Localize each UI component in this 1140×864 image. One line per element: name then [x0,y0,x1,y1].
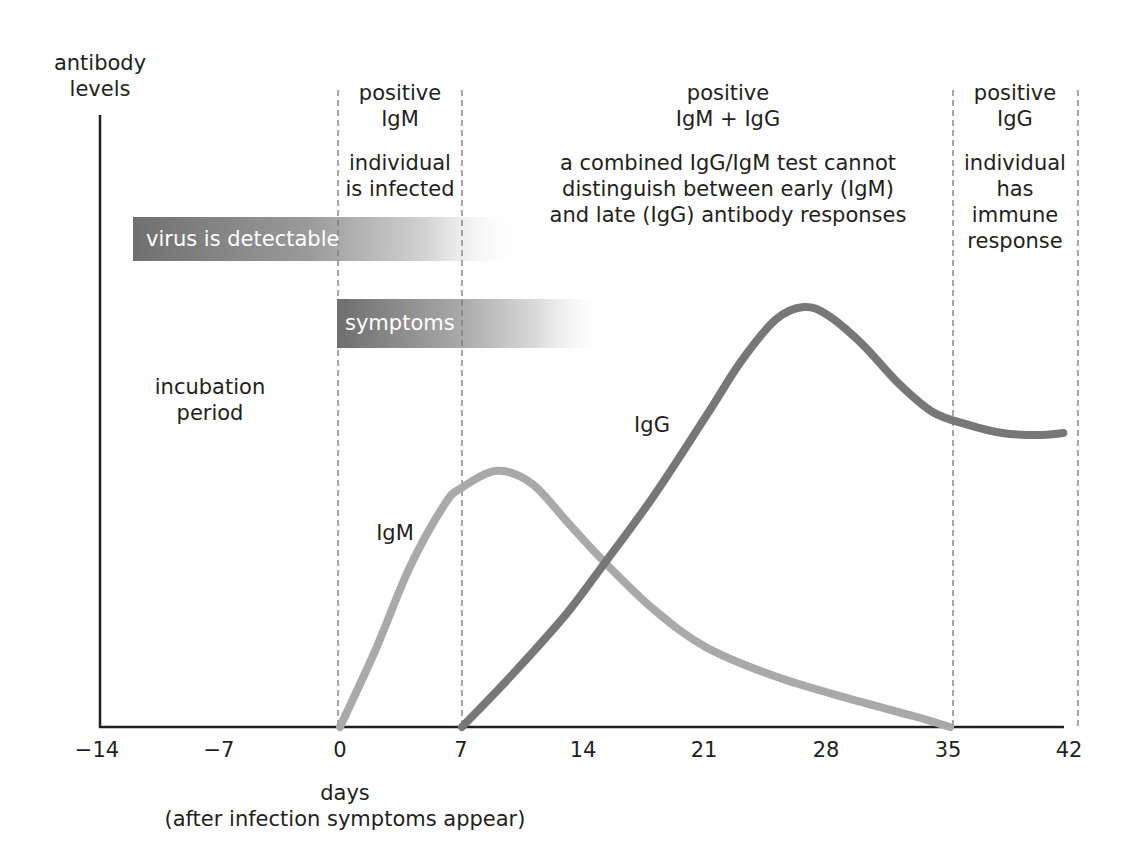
phase1-desc-line2: is infected [346,176,455,202]
igm-curve-label: IgM [376,520,414,546]
phase3-title-line1: positive [974,80,1056,106]
virus-bar-label: virus is detectable [133,217,343,261]
x-tick: −7 [204,738,235,762]
y-axis-title-line2: levels [54,76,146,102]
igg-curve-label: IgG [634,412,670,438]
phase2-desc-line1: a combined IgG/IgM test cannot [550,150,907,176]
phase3-desc-line3: immune [964,202,1066,228]
incubation-line1: incubation [155,374,265,400]
x-tick: 35 [935,738,962,762]
phase2-description: a combined IgG/IgM test cannot distingui… [550,150,907,228]
phase3-title: positive IgG [974,80,1056,132]
x-axis-subtitle: (after infection symptoms appear) [165,806,526,832]
phase3-description: individual has immune response [964,150,1066,254]
phase1-title-line1: positive [359,80,441,106]
phase3-desc-line2: has [964,176,1066,202]
phase2-title-line2: IgM + IgG [676,106,780,132]
igg-curve [462,307,1063,727]
phase1-title-line2: IgM [359,106,441,132]
phase3-desc-line1: individual [964,150,1066,176]
phase2-title-line1: positive [676,80,780,106]
x-tick: 21 [691,738,718,762]
x-tick: −14 [75,738,119,762]
antibody-chart [0,0,1140,864]
y-axis-title-line1: antibody [54,50,146,76]
symptoms-bar-label: symptoms [337,301,467,345]
x-axis-title: days (after infection symptoms appear) [165,780,526,832]
incubation-line2: period [155,400,265,426]
y-axis-title: antibody levels [54,50,146,102]
phase2-title: positive IgM + IgG [676,80,780,132]
phase1-description: individual is infected [346,150,455,202]
phase3-title-line2: IgG [974,106,1056,132]
x-tick: 7 [454,738,467,762]
phase2-desc-line3: and late (IgG) antibody responses [550,202,907,228]
phase1-title: positive IgM [359,80,441,132]
x-tick: 14 [570,738,597,762]
x-tick: 42 [1056,738,1083,762]
x-tick: 0 [333,738,346,762]
phase2-desc-line2: distinguish between early (IgM) [550,176,907,202]
x-tick: 28 [813,738,840,762]
phase3-desc-line4: response [964,228,1066,254]
incubation-period-label: incubation period [155,374,265,426]
x-axis-title-line1: days [165,780,526,806]
phase1-desc-line1: individual [346,150,455,176]
